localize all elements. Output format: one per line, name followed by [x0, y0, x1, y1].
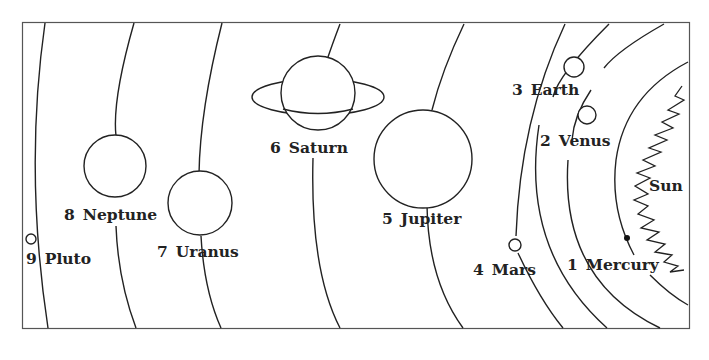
- label-mars: 4Mars: [473, 262, 536, 278]
- planet-name: Venus: [559, 131, 611, 150]
- planet-number: 7: [157, 242, 168, 261]
- label-saturn: 6Saturn: [270, 140, 348, 156]
- planet-number: 3: [512, 80, 523, 99]
- planet-venus: [578, 106, 596, 124]
- label-venus: 2Venus: [540, 133, 611, 149]
- planet-name: Jupiter: [401, 209, 462, 228]
- solar-system-diagram: [0, 0, 709, 360]
- planet-name: Earth: [531, 80, 579, 99]
- label-mercury: 1Mercury: [567, 257, 659, 273]
- planet-saturn: [281, 56, 355, 130]
- planet-number: 9: [26, 249, 37, 268]
- planet-mercury: [624, 235, 630, 241]
- planet-pluto: [26, 234, 36, 244]
- planet-name: Mercury: [586, 255, 659, 274]
- label-earth: 3Earth: [512, 82, 579, 98]
- orbit-mars: [516, 24, 565, 328]
- planet-number: 5: [382, 209, 393, 228]
- planet-number: 1: [567, 255, 578, 274]
- label-uranus: 7Uranus: [157, 244, 239, 260]
- planet-number: 8: [64, 205, 75, 224]
- planet-mars: [509, 239, 521, 251]
- planet-name: Pluto: [45, 249, 91, 268]
- label-sun: Sun: [649, 178, 683, 194]
- planet-name: Uranus: [176, 242, 239, 261]
- orbit-pluto: [35, 23, 48, 328]
- label-jupiter: 5Jupiter: [382, 211, 461, 227]
- label-pluto: 9Pluto: [26, 251, 91, 267]
- planet-name: Saturn: [289, 138, 348, 157]
- planet-neptune: [84, 135, 146, 197]
- planet-number: 4: [473, 260, 484, 279]
- planet-jupiter: [374, 110, 472, 208]
- planet-number: 2: [540, 131, 551, 150]
- planet-number: 6: [270, 138, 281, 157]
- planet-name: Neptune: [83, 205, 157, 224]
- label-neptune: 8Neptune: [64, 207, 157, 223]
- planet-earth: [564, 57, 584, 77]
- sun-name: Sun: [649, 176, 683, 195]
- planet-name: Mars: [492, 260, 536, 279]
- planet-uranus: [168, 171, 232, 235]
